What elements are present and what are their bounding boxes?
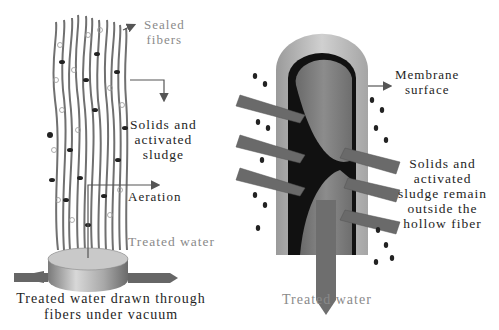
caption-left: Treated water drawn through fibers under… xyxy=(6,291,216,322)
label-solids-left: Solids and activated sludge xyxy=(130,117,197,162)
label-solids-right: Solids and activated sludge remain outsi… xyxy=(398,156,487,232)
fiber-bundle xyxy=(53,15,127,250)
manifold-base xyxy=(14,248,178,292)
mbr-diagram: Sealed fibers Solids and activated sludg… xyxy=(0,0,499,330)
label-aeration: Aeration xyxy=(128,190,181,205)
label-treated-water-right: Treated water xyxy=(282,292,372,308)
label-treated-water-left: Treated water xyxy=(128,234,215,249)
label-membrane-surface: Membrane surface xyxy=(395,68,459,97)
hollow-fiber xyxy=(276,34,368,315)
label-sealed-fibers: Sealed fibers xyxy=(144,18,185,47)
